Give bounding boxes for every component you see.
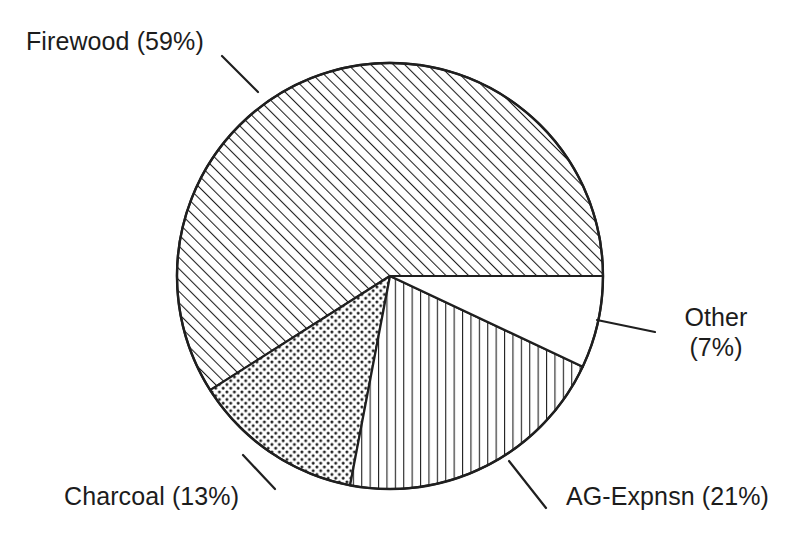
leader-line-firewood bbox=[222, 56, 258, 92]
leader-line-other bbox=[597, 320, 655, 332]
pie-slices bbox=[177, 63, 603, 489]
leader-line-ag-expnsn bbox=[509, 461, 546, 508]
slice-label-ag-expnsn: AG-Expnsn (21%) bbox=[566, 482, 769, 512]
slice-label-charcoal: Charcoal (13%) bbox=[64, 482, 239, 512]
slice-label-other-percent: (7%) bbox=[660, 333, 772, 363]
slice-label-firewood: Firewood (59%) bbox=[26, 27, 204, 57]
slice-label-other-name: Other bbox=[684, 303, 747, 331]
pie-chart-canvas bbox=[0, 0, 786, 560]
pie-chart-figure: Firewood (59%) Charcoal (13%) AG-Expnsn … bbox=[0, 0, 786, 560]
leader-line-charcoal bbox=[243, 455, 275, 489]
slice-label-other: Other (7%) bbox=[660, 303, 772, 362]
